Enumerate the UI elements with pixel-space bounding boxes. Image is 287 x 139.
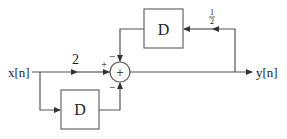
svg-text:+: + (116, 65, 124, 80)
sign-plus: + (101, 58, 107, 70)
svg-text:D: D (74, 101, 86, 118)
forward-gain: 2 (72, 52, 79, 67)
delay-top-to-adder (120, 29, 144, 61)
summing-junction: + (110, 62, 130, 82)
svg-text:2: 2 (210, 17, 214, 26)
svg-text:1: 1 (210, 8, 214, 17)
input-label: x[n] (8, 65, 30, 80)
feedback-path (184, 29, 235, 72)
sign-minus-bottom: − (109, 81, 115, 93)
output-label: y[n] (256, 65, 278, 80)
delay-block-top: D (144, 9, 183, 48)
feedback-gain: 1 2 (209, 8, 215, 26)
sign-minus-top: − (109, 50, 115, 62)
svg-text:D: D (158, 21, 170, 38)
branch-to-delay (40, 72, 60, 110)
delay-block-bottom: D (61, 90, 99, 129)
block-diagram: x[n] 2 D + + − − y[n] 1 2 D (0, 0, 287, 139)
